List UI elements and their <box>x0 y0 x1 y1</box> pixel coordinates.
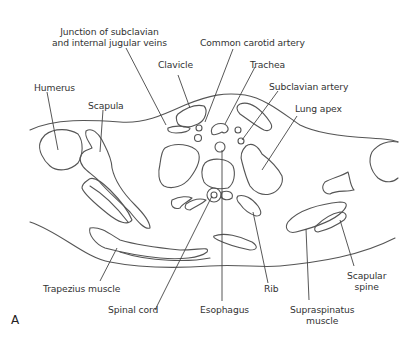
label-subclavian-artery: Subclavian artery <box>269 81 348 92</box>
rib-lower <box>214 234 257 250</box>
leader-lung-apex <box>262 116 297 170</box>
leader-rib <box>253 212 268 283</box>
humerus-shape <box>40 130 83 170</box>
left-lateral-mass <box>159 145 199 188</box>
label-supraspinatus-line1: Supraspinatus <box>290 304 354 315</box>
clavicle-shape <box>177 105 207 127</box>
leader-scapula <box>100 110 103 152</box>
leader-common-carotid <box>205 49 233 122</box>
scapular-spine-shape <box>315 212 346 232</box>
leader-trachea <box>225 67 255 124</box>
jugular-vein-circle <box>196 125 202 131</box>
lung-apex-shape <box>241 144 282 194</box>
vertebral-body <box>202 159 235 189</box>
esophagus-circle <box>215 142 225 152</box>
right-humerus-head <box>370 141 398 181</box>
label-junction: Junction of subclavian and internal jugu… <box>52 26 167 48</box>
label-common-carotid: Common carotid artery <box>200 37 305 48</box>
anatomy-cross-section-figure: Junction of subclavian and internal jugu… <box>0 0 415 344</box>
label-humerus: Humerus <box>34 82 75 93</box>
label-trapezius: Trapezius muscle <box>43 283 120 294</box>
label-scapular-spine-line1: Scapular <box>347 270 386 281</box>
clavicle-lower <box>168 126 190 133</box>
rib-shape <box>237 195 261 216</box>
spinal-canal <box>207 188 221 202</box>
label-esophagus: Esophagus <box>200 304 249 315</box>
label-supraspinatus: Supraspinatus muscle <box>290 304 354 326</box>
label-scapular-spine: Scapular spine <box>347 270 386 292</box>
supraspinatus-shape <box>286 202 346 232</box>
body-outline-bottom <box>30 222 395 267</box>
leader-scapular-spine <box>340 220 354 266</box>
subclavian-vein-circle <box>195 135 202 142</box>
label-trachea: Trachea <box>250 59 285 70</box>
leader-subclavian <box>242 91 278 140</box>
label-rib: Rib <box>264 283 278 294</box>
panel-letter: A <box>11 313 19 327</box>
lamina-right <box>221 191 232 199</box>
right-acromion <box>323 172 354 194</box>
label-junction-line2: and internal jugular veins <box>52 37 167 48</box>
label-junction-line1: Junction of subclavian <box>52 26 167 37</box>
label-spinal-cord: Spinal cord <box>108 304 158 315</box>
subclavian-artery-circle <box>235 127 241 133</box>
leader-spinal-cord <box>155 196 212 310</box>
leader-humerus <box>47 92 58 150</box>
leader-trapezius <box>100 248 117 281</box>
label-supraspinatus-line2: muscle <box>290 315 354 326</box>
label-scapula: Scapula <box>88 100 124 111</box>
leader-supraspinatus <box>306 229 309 300</box>
label-clavicle: Clavicle <box>158 59 193 70</box>
trachea-shape <box>211 124 228 135</box>
trapezius-shape <box>90 228 208 259</box>
label-lung-apex: Lung apex <box>295 103 342 114</box>
scapula-blade <box>82 178 132 222</box>
leader-clavicle <box>178 75 190 108</box>
label-scapular-spine-line2: spine <box>347 281 386 292</box>
